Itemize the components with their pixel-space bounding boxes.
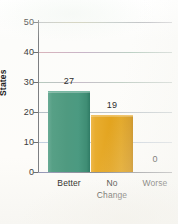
bar-better[interactable]: 27 [48, 91, 90, 172]
bar-chart: States 50 40 30 20 10 0 27 [0, 0, 178, 224]
y-axis-line [38, 20, 39, 173]
y-axis-title: States [0, 69, 8, 96]
y-tick-50 [33, 22, 38, 23]
y-tick-20 [33, 112, 38, 113]
gridline-40: 40 [38, 52, 172, 53]
x-axis-category-labels: Better No Change Worse [38, 178, 172, 218]
y-tick-30 [33, 82, 38, 83]
y-tick-0 [33, 172, 38, 173]
x-label-worse: Worse [130, 178, 178, 189]
gridline-50: 50 [38, 22, 172, 23]
y-tick-10 [33, 142, 38, 143]
bar-label-worse: 0 [134, 154, 176, 164]
bar-no-change-fill [91, 115, 133, 172]
bar-label-no-change: 19 [91, 100, 133, 110]
x-label-no-change-line2: Change [85, 190, 139, 201]
y-tick-40 [33, 52, 38, 53]
bar-better-fill [48, 91, 90, 172]
bar-label-better: 27 [48, 76, 90, 86]
x-axis-line [33, 172, 172, 173]
bar-no-change[interactable]: 19 [91, 115, 133, 172]
plot-area: 50 40 30 20 10 0 27 19 [38, 22, 172, 172]
